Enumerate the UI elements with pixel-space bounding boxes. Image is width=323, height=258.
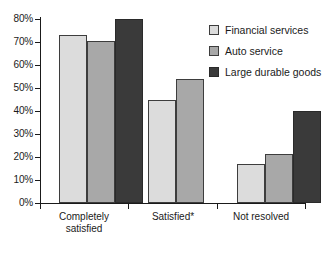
- y-axis-tick: [35, 19, 40, 20]
- legend-item-large-durable-goods: Large durable goods: [209, 63, 321, 81]
- bar-satisfied-auto-service: [176, 79, 204, 203]
- bar-chart: 80% 70% 60% 50% 40% 30% 20% 10% 0% Compl…: [0, 0, 323, 258]
- bar-completely-satisfied-auto-service: [87, 41, 115, 203]
- x-axis-tick: [305, 204, 306, 209]
- bar-satisfied-financial-services: [148, 100, 176, 204]
- x-axis-line: [40, 203, 306, 204]
- y-axis-label-10: 10%: [0, 175, 33, 185]
- y-axis-label-50: 50%: [0, 83, 33, 93]
- x-axis-category-line2: satisfied: [44, 223, 124, 235]
- y-axis-label-70: 70%: [0, 37, 33, 47]
- x-axis-category-completely-satisfied: Completely satisfied: [44, 211, 124, 234]
- y-axis-tick: [35, 65, 40, 66]
- legend-item-auto-service: Auto service: [209, 42, 321, 60]
- y-axis-tick: [35, 134, 40, 135]
- bar-not-resolved-auto-service: [265, 154, 293, 204]
- bar-not-resolved-financial-services: [237, 164, 265, 203]
- y-axis-tick: [35, 157, 40, 158]
- x-axis-tick: [217, 204, 218, 209]
- x-axis-category-line1: Satisfied*: [133, 211, 213, 223]
- legend-swatch-icon: [209, 25, 219, 35]
- legend-label-auto-service: Auto service: [225, 46, 283, 57]
- x-axis-category-satisfied: Satisfied*: [133, 211, 213, 223]
- legend-swatch-icon: [209, 46, 219, 56]
- y-axis-tick: [35, 42, 40, 43]
- y-axis-label-0: 0%: [0, 198, 33, 208]
- bar-not-resolved-large-durable-goods: [293, 111, 321, 203]
- y-axis-label-80: 80%: [0, 14, 33, 24]
- y-axis-label-40: 40%: [0, 106, 33, 116]
- x-axis-category-line1: Completely: [44, 211, 124, 223]
- y-axis-label-30: 30%: [0, 129, 33, 139]
- y-axis-tick: [35, 88, 40, 89]
- bar-completely-satisfied-financial-services: [59, 35, 87, 203]
- x-axis-tick: [40, 204, 41, 209]
- y-axis-tick: [35, 111, 40, 112]
- legend-item-financial-services: Financial services: [209, 21, 321, 39]
- y-axis-label-20: 20%: [0, 152, 33, 162]
- y-axis-label-60: 60%: [0, 60, 33, 70]
- legend-label-large-durable-goods: Large durable goods: [225, 67, 321, 78]
- chart-legend: Financial services Auto service Large du…: [209, 21, 321, 84]
- bar-completely-satisfied-large-durable-goods: [115, 19, 143, 203]
- legend-swatch-icon: [209, 67, 219, 77]
- x-axis-category-line1: Not resolved: [221, 211, 301, 223]
- legend-label-financial-services: Financial services: [225, 25, 308, 36]
- y-axis-tick: [35, 180, 40, 181]
- x-axis-category-not-resolved: Not resolved: [221, 211, 301, 223]
- x-axis-tick: [128, 204, 129, 209]
